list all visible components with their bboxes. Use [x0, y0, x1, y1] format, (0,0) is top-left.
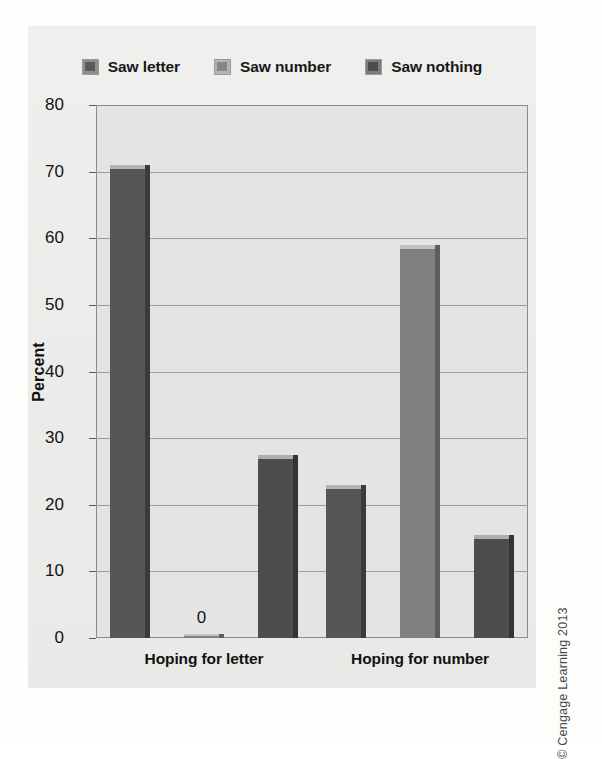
chart-legend: Saw letter Saw number Saw nothing — [28, 52, 536, 82]
y-tick-mark — [89, 438, 96, 439]
plot-wrapper: 0 — [96, 105, 528, 638]
y-tick-mark — [89, 305, 96, 306]
bar-front-face — [258, 459, 293, 638]
bar-front-face — [184, 636, 219, 638]
y-tick-label: 0 — [4, 628, 64, 648]
bar-side-face — [509, 535, 514, 638]
bar-front-face — [110, 169, 145, 638]
x-axis-label: Hoping for letter — [145, 650, 264, 668]
y-tick-mark — [89, 638, 96, 639]
x-axis-label: Hoping for number — [351, 650, 489, 668]
x-axis-labels: Hoping for letterHoping for number — [96, 650, 528, 680]
bar[interactable]: 0 — [184, 634, 224, 638]
bar-side-face — [145, 165, 150, 638]
y-tick-label: 40 — [4, 362, 64, 382]
legend-label-saw-nothing: Saw nothing — [391, 58, 482, 76]
legend-label-saw-number: Saw number — [240, 58, 331, 76]
bars-layer: 0 — [96, 105, 528, 638]
bar-side-face — [219, 634, 224, 638]
legend-swatch-saw-nothing-icon — [365, 59, 382, 75]
bar-front-face — [326, 489, 361, 638]
copyright-text: © Cengage Learning 2013 — [556, 607, 570, 758]
bar-value-label: 0 — [184, 608, 219, 628]
bar[interactable] — [326, 485, 366, 638]
legend-item-saw-number[interactable]: Saw number — [214, 58, 331, 76]
copyright-credit: © Cengage Learning 2013 — [551, 470, 575, 690]
y-tick-mark — [89, 372, 96, 373]
legend-swatch-saw-letter-icon — [82, 59, 99, 75]
y-tick-label: 80 — [4, 95, 64, 115]
bar[interactable] — [474, 535, 514, 638]
y-tick-label: 10 — [4, 561, 64, 581]
bar-side-face — [435, 245, 440, 638]
bar-side-face — [293, 455, 298, 638]
y-tick-mark — [89, 105, 96, 106]
y-tick-label: 20 — [4, 495, 64, 515]
bar-front-face — [474, 539, 509, 638]
y-tick-mark — [89, 571, 96, 572]
y-tick-label: 70 — [4, 162, 64, 182]
bar[interactable] — [400, 245, 440, 638]
bar-group — [312, 105, 528, 638]
bar-group: 0 — [96, 105, 312, 638]
y-tick-label: 50 — [4, 295, 64, 315]
legend-label-saw-letter: Saw letter — [108, 58, 180, 76]
bar-side-face — [361, 485, 366, 638]
y-tick-mark — [89, 172, 96, 173]
bar[interactable] — [258, 455, 298, 638]
legend-item-saw-nothing[interactable]: Saw nothing — [365, 58, 482, 76]
y-tick-mark — [89, 505, 96, 506]
y-tick-mark — [89, 238, 96, 239]
bar-front-face — [400, 249, 435, 638]
y-tick-label: 60 — [4, 228, 64, 248]
bar[interactable] — [110, 165, 150, 638]
legend-item-saw-letter[interactable]: Saw letter — [82, 58, 180, 76]
y-tick-label: 30 — [4, 428, 64, 448]
legend-swatch-saw-number-icon — [214, 59, 231, 75]
